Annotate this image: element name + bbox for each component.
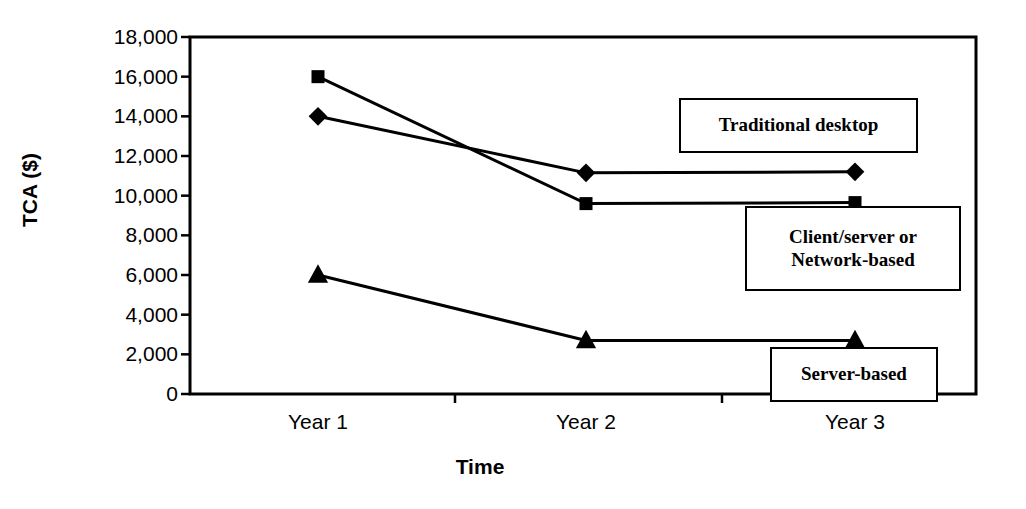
data-point-marker	[577, 163, 596, 182]
annotation-label: Traditional desktop	[719, 114, 879, 136]
data-point-marker	[846, 163, 865, 182]
annotation-line: Traditional desktop	[719, 114, 879, 136]
data-point-marker	[312, 70, 325, 83]
data-point-marker	[580, 197, 593, 210]
annotation-line: Client/server or	[789, 226, 917, 248]
annotation-traditional-desktop: Traditional desktop	[679, 98, 918, 153]
data-point-marker	[309, 107, 328, 126]
annotation-server-based: Server-based	[770, 347, 938, 402]
data-point-marker	[308, 264, 328, 282]
annotation-line: Network-based	[789, 249, 917, 271]
annotation-label: Server-based	[801, 363, 907, 385]
chart-figure: TCA ($) 02,0004,0006,0008,00010,00012,00…	[0, 0, 1026, 509]
annotation-line: Server-based	[801, 363, 907, 385]
annotation-client-server-network-based: Client/server orNetwork-based	[745, 206, 961, 291]
annotation-label: Client/server orNetwork-based	[789, 226, 917, 271]
